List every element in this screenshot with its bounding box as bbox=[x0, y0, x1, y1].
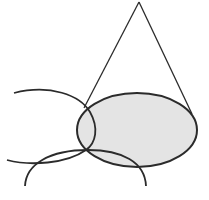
cone-left-edge bbox=[84, 2, 139, 108]
geometry-figure bbox=[0, 0, 209, 200]
diagram-canvas bbox=[0, 0, 209, 200]
